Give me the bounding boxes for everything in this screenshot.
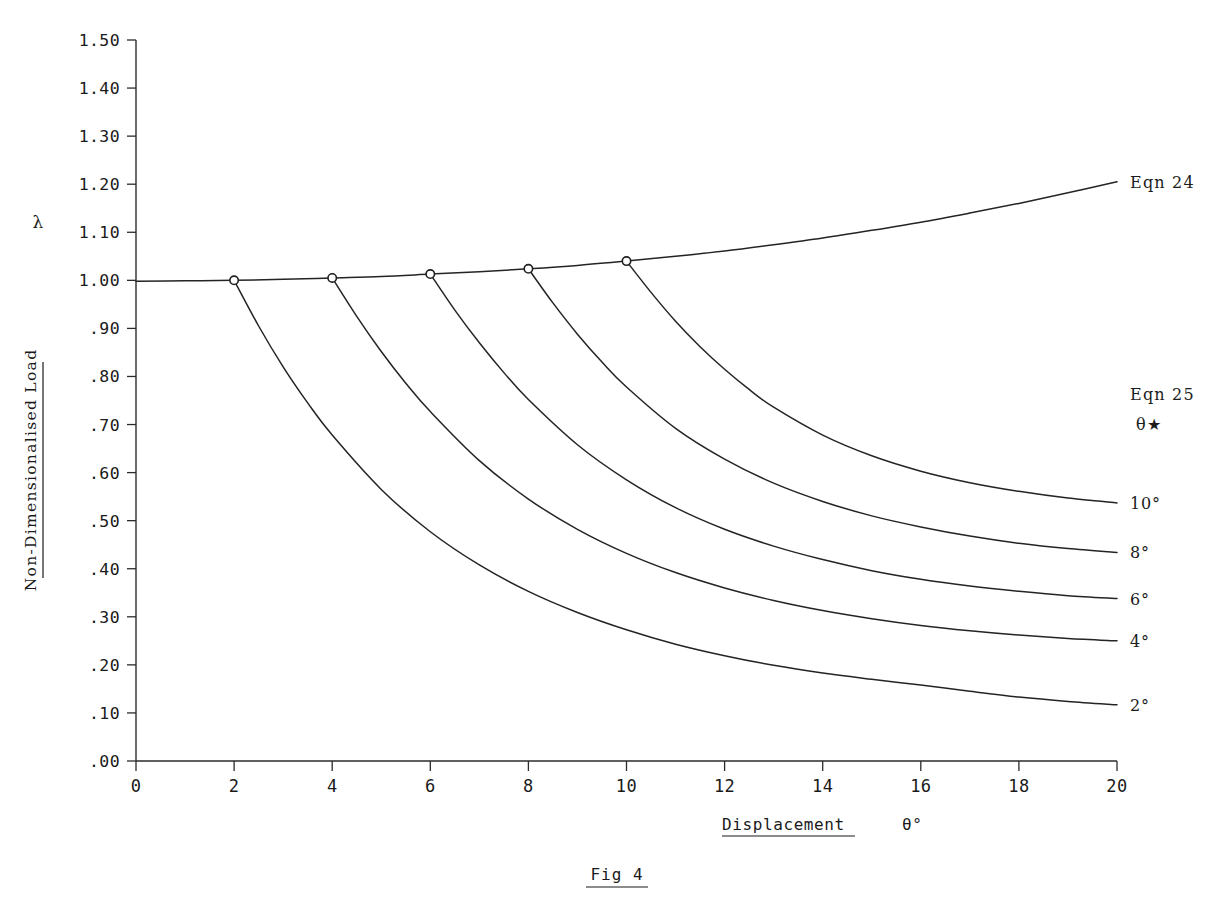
- branch-label-6deg: 6°: [1130, 590, 1150, 609]
- labels-layer: Eqn 24Eqn 25θ★10°8°6°4°2°: [1130, 173, 1195, 715]
- branch-point-marker-2: [426, 270, 434, 278]
- y-tick-label-5: 1.00: [79, 271, 120, 290]
- x-tick-label-2: 4: [327, 776, 338, 796]
- chart-canvas: 1.501.401.301.201.101.00.90.80.70.60.50.…: [0, 0, 1207, 908]
- curve-6: [430, 274, 1117, 598]
- x-tick-label-10: 20: [1106, 776, 1127, 796]
- y-tick-label-14: .10: [89, 704, 120, 723]
- x-tick-label-3: 6: [425, 776, 436, 796]
- y-tick-label-13: .20: [89, 656, 120, 675]
- y-tick-label-2: 1.30: [79, 127, 120, 146]
- branch-point-marker-3: [524, 265, 532, 273]
- curve-8: [528, 269, 1117, 553]
- x-tick-label-4: 8: [523, 776, 534, 796]
- markers-layer: [230, 257, 631, 285]
- figure-root: 1.501.401.301.201.101.00.90.80.70.60.50.…: [0, 0, 1207, 908]
- branch-label-8deg: 8°: [1130, 543, 1150, 562]
- x-tick-label-1: 2: [229, 776, 240, 796]
- curve-2: [234, 280, 1117, 704]
- y-tick-label-12: .30: [89, 608, 120, 627]
- branch-label-10deg: 10°: [1130, 494, 1161, 513]
- curve-10: [627, 261, 1118, 503]
- x-tick-label-0: 0: [131, 776, 142, 796]
- eqn24-label: Eqn 24: [1130, 173, 1195, 192]
- x-tick-label-8: 16: [910, 776, 931, 796]
- x-tick-label-7: 14: [812, 776, 833, 796]
- x-tick-label-5: 10: [616, 776, 637, 796]
- eqn25-label: Eqn 25: [1130, 385, 1195, 404]
- axes-layer: 1.501.401.301.201.101.00.90.80.70.60.50.…: [79, 31, 1128, 796]
- y-tick-label-11: .40: [89, 560, 120, 579]
- y-tick-label-6: .90: [89, 319, 120, 338]
- y-tick-label-15: .00: [89, 752, 120, 771]
- branch-point-marker-0: [230, 276, 238, 284]
- y-tick-label-0: 1.50: [79, 31, 120, 50]
- branch-label-4deg: 4°: [1130, 632, 1150, 651]
- x-tick-label-6: 12: [714, 776, 735, 796]
- y-tick-label-10: .50: [89, 512, 120, 531]
- branch-point-marker-4: [622, 257, 630, 265]
- branch-label-2deg: 2°: [1130, 696, 1150, 715]
- y-tick-label-1: 1.40: [79, 79, 120, 98]
- y-tick-label-3: 1.20: [79, 175, 120, 194]
- theta-star-label: θ★: [1136, 415, 1162, 434]
- y-tick-label-8: .70: [89, 416, 120, 435]
- x-tick-label-9: 18: [1008, 776, 1029, 796]
- y-tick-label-9: .60: [89, 464, 120, 483]
- y-tick-label-4: 1.10: [79, 223, 120, 242]
- branch-point-marker-1: [328, 274, 336, 282]
- curve-eqn24: [136, 182, 1117, 281]
- y-tick-label-7: .80: [89, 367, 120, 386]
